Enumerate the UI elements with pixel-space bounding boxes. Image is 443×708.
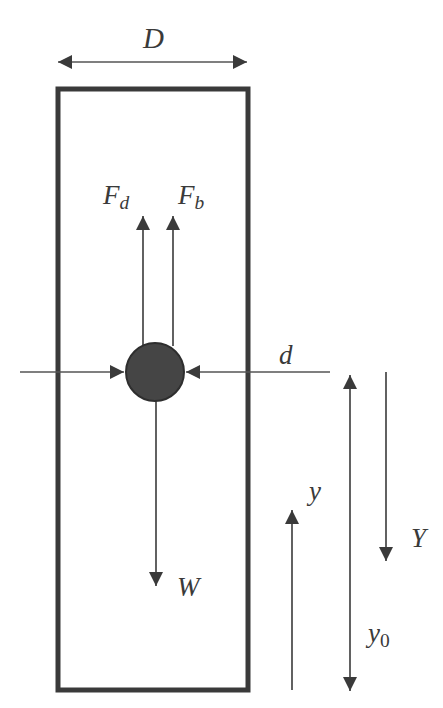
label-Fd-main: F	[103, 180, 120, 210]
label-D-text: D	[143, 22, 164, 54]
label-W: W	[177, 574, 200, 601]
diagram-canvas	[0, 0, 443, 708]
label-Fb-main: F	[178, 180, 195, 210]
label-Fb: Fb	[178, 182, 204, 209]
label-y: y	[309, 478, 321, 505]
label-D: D	[143, 24, 164, 53]
label-Fd: Fd	[103, 182, 129, 209]
label-d-text: d	[279, 340, 293, 370]
label-y0: y0	[368, 620, 390, 647]
particle	[126, 343, 184, 401]
label-y-text: y	[309, 476, 321, 506]
label-d: d	[279, 342, 293, 369]
label-Fb-sub: b	[195, 192, 205, 213]
label-Y-text: Y	[411, 523, 426, 553]
label-y0-sub: 0	[380, 630, 390, 651]
label-Y: Y	[411, 525, 426, 552]
label-Fd-sub: d	[120, 192, 130, 213]
label-W-text: W	[177, 572, 200, 602]
label-y0-main: y	[368, 618, 380, 648]
